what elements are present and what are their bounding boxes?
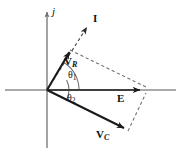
angle-label-theta1-sub: 1 [73,73,77,82]
angle-label-theta2-sub: 2 [72,96,76,105]
vector-label-VC-main: V [96,128,104,140]
vector-label-I: I [93,13,97,24]
axis-group [5,12,176,148]
vector-VC-line [47,90,124,128]
axis-label-j: j [52,6,55,17]
vector-group [47,52,140,128]
vector-label-VC: VC [96,129,109,142]
angle-label-theta2: θ2 [67,93,76,105]
vector-label-VR: VR [64,56,77,69]
vector-label-VC-sub: C [104,133,109,142]
vector-label-VR-sub: R [72,60,77,69]
theta2-arc [67,80,69,90]
vector-label-VR-main: V [64,55,72,67]
angle-label-theta1: θ1 [68,70,77,82]
construction-line-vr-to-e [70,50,146,87]
phasor-diagram-canvas: j I VR E VC θ1 θ2 [0,0,183,148]
vector-label-E: E [117,93,124,104]
vector-label-I-main: I [93,12,97,24]
vector-label-E-main: E [117,92,124,104]
phasor-diagram-svg [0,0,183,148]
construction-line-vc-to-e [128,93,146,131]
